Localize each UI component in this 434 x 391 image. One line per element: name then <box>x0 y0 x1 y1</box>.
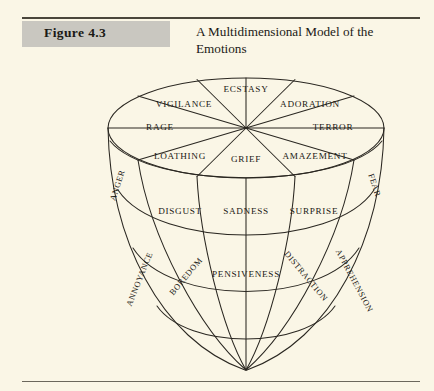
cone-right-silhouette <box>247 128 384 370</box>
label-terror: TERROR <box>313 122 354 132</box>
header-rule-top <box>22 17 420 19</box>
label-loathing: LOATHING <box>154 151 206 161</box>
label-surprise: SURPRISE <box>290 206 339 216</box>
footer-rule-bottom <box>22 381 420 382</box>
label-apprehension: APPREHENSION <box>334 248 375 314</box>
label-amazement: AMAZEMENT <box>283 151 348 161</box>
figure-title: A Multidimensional Model of the Emotions <box>196 23 418 57</box>
label-grief: GRIEF <box>231 154 261 164</box>
label-annoyance: ANNOYANCE <box>125 251 155 308</box>
cone-left-silhouette <box>108 128 245 370</box>
cone-svg: ECSTASY VIGILANCE ADORATION RAGE TERROR … <box>0 58 434 378</box>
figure-page: Figure 4.3 A Multidimensional Model of t… <box>0 0 434 391</box>
label-pensiveness: PENSIVENESS <box>212 269 280 279</box>
figure-number-label: Figure 4.3 <box>44 25 106 41</box>
label-disgust: DISGUST <box>158 206 202 216</box>
emotion-cone-diagram: ECSTASY VIGILANCE ADORATION RAGE TERROR … <box>0 58 434 378</box>
label-rage: RAGE <box>146 122 174 132</box>
label-boredom: BOREDOM <box>168 256 205 297</box>
label-vigilance: VIGILANCE <box>156 99 212 109</box>
label-adoration: ADORATION <box>280 99 340 109</box>
label-ecstasy: ECSTASY <box>223 84 268 94</box>
label-distraction: DISTRACTION <box>282 250 329 304</box>
cone-labels: ECSTASY VIGILANCE ADORATION RAGE TERROR … <box>108 84 382 314</box>
label-sadness: SADNESS <box>223 206 269 216</box>
